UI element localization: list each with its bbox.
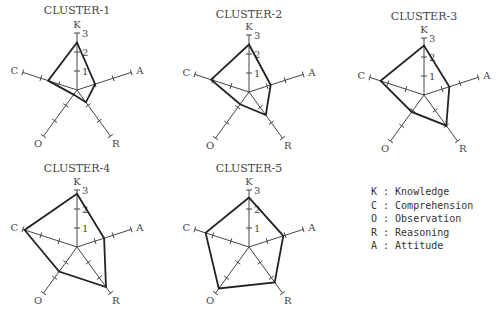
radar-chart-4: CLUSTER-4KAROC123 [10, 162, 144, 306]
legend-item-knowledge: K : Knowledge [371, 185, 473, 199]
axis-tick [52, 276, 57, 280]
axis-tick [41, 291, 46, 295]
chart-title: CLUSTER-3 [391, 10, 457, 23]
tick-label: 3 [82, 185, 88, 196]
axis-label-R: R [284, 295, 292, 306]
tick-label: 1 [82, 223, 88, 234]
axis-tick [269, 276, 274, 280]
legend-item-reasoning: R : Reasoning [371, 226, 473, 240]
tick-label: 3 [82, 28, 88, 39]
data-polygon [206, 198, 284, 289]
axis-tick [63, 261, 68, 265]
radar-chart-1: CLUSTER-1KAROC123 [10, 4, 144, 149]
axis-tick [108, 291, 113, 295]
legend-item-comprehension: C : Comprehension [371, 199, 473, 213]
axis-tick [97, 119, 102, 123]
tick-label: 1 [254, 68, 260, 79]
tick-label: 1 [254, 223, 260, 234]
axis-C [195, 229, 249, 247]
axis-O [215, 92, 249, 138]
axis-tick [235, 106, 240, 110]
axis-tick [433, 109, 438, 113]
legend-item-attitude: A : Attitude [371, 239, 473, 253]
axis-tick [269, 121, 274, 125]
axis-C [370, 77, 424, 95]
axis-O [390, 95, 424, 141]
legend: K : Knowledge C : Comprehension O : Obse… [371, 185, 473, 253]
axis-label-O: O [206, 140, 214, 151]
axis-tick [86, 104, 91, 108]
axis-label-R: R [459, 143, 467, 154]
axis-label-R: R [112, 138, 120, 149]
axis-label-O: O [34, 295, 42, 306]
axis-tick [388, 139, 393, 143]
axis-tick [41, 134, 46, 138]
axis-O [43, 90, 77, 136]
axis-label-R: R [112, 295, 120, 306]
axis-label-A: A [482, 70, 491, 81]
axis-tick [399, 124, 404, 128]
tick-label: 3 [254, 185, 260, 196]
chart-title: CLUSTER-2 [216, 8, 282, 21]
tick-label: 3 [429, 33, 435, 44]
tick-label: 3 [254, 30, 260, 41]
axis-label-A: A [135, 65, 144, 76]
data-polygon [25, 194, 106, 287]
axis-tick [97, 276, 102, 280]
chart-title: CLUSTER-1 [44, 4, 110, 17]
axis-tick [280, 291, 285, 295]
axis-label-C: C [10, 222, 18, 233]
legend-item-observation: O : Observation [371, 212, 473, 226]
axis-label-C: C [182, 67, 190, 78]
axis-tick [213, 136, 218, 140]
data-polygon [381, 46, 450, 126]
axis-tick [224, 121, 229, 125]
chart-title: CLUSTER-5 [216, 162, 282, 175]
axis-O [43, 247, 77, 293]
axis-label-A: A [135, 222, 144, 233]
axis-R [77, 90, 111, 136]
axis-tick [224, 276, 229, 280]
axis-label-A: A [307, 222, 316, 233]
axis-tick [280, 136, 285, 140]
axis-label-A: A [307, 67, 316, 78]
axis-tick [108, 134, 113, 138]
axis-label-C: C [10, 65, 18, 76]
axis-label-K: K [245, 21, 253, 32]
axis-tick [455, 139, 460, 143]
axis-label-K: K [420, 24, 428, 35]
axis-tick [86, 261, 91, 265]
axis-label-C: C [357, 70, 365, 81]
radar-chart-2: CLUSTER-2KAROC123 [182, 8, 316, 151]
axis-label-C: C [182, 222, 190, 233]
axis-tick [52, 119, 57, 123]
axis-label-O: O [34, 138, 42, 149]
data-polygon [211, 45, 271, 116]
radar-charts-svg: CLUSTER-1KAROC123CLUSTER-2KAROC123CLUSTE… [0, 0, 496, 319]
chart-title: CLUSTER-4 [44, 162, 110, 175]
axis-label-O: O [206, 295, 214, 306]
axis-label-O: O [381, 143, 389, 154]
axis-label-K: K [245, 176, 253, 187]
axis-tick [235, 261, 240, 265]
axis-tick [258, 106, 263, 110]
axis-label-K: K [73, 176, 81, 187]
radar-chart-5: CLUSTER-5KAROC123 [182, 162, 316, 306]
axis-tick [213, 291, 218, 295]
axis-tick [63, 104, 68, 108]
tick-label: 1 [429, 71, 435, 82]
axis-label-R: R [284, 140, 292, 151]
axis-tick [258, 261, 263, 265]
radar-chart-3: CLUSTER-3KAROC123 [357, 10, 491, 154]
axis-label-K: K [73, 19, 81, 30]
